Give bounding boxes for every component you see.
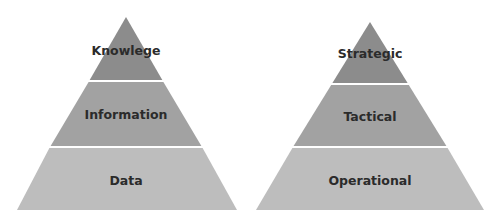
level-label-operational: Operational: [328, 173, 411, 188]
knowledge-pyramid: Knowlege Information Data: [17, 17, 237, 210]
pyramid-diagrams: Knowlege Information Data Strategic Tact…: [0, 0, 502, 222]
management-pyramid: Strategic Tactical Operational: [256, 22, 484, 210]
level-label-knowledge: Knowlege: [92, 43, 161, 58]
level-label-strategic: Strategic: [338, 46, 403, 61]
level-label-data: Data: [109, 173, 142, 188]
level-label-tactical: Tactical: [343, 109, 396, 124]
level-label-information: Information: [85, 107, 168, 122]
